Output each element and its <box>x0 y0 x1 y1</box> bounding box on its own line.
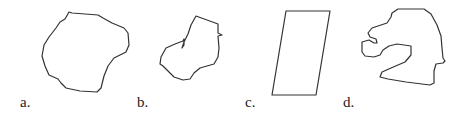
label-c: c. <box>245 94 255 111</box>
shape-a <box>42 12 129 92</box>
shapes-figure <box>0 0 469 117</box>
label-b: b. <box>137 94 148 111</box>
shape-d <box>362 9 445 85</box>
shape-b <box>160 16 222 80</box>
shape-c <box>272 11 330 95</box>
label-a: a. <box>20 94 30 111</box>
label-d: d. <box>343 94 354 111</box>
